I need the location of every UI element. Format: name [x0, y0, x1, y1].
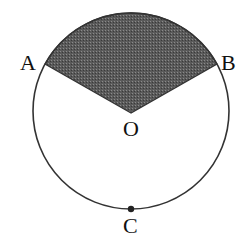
label-c: C: [123, 213, 138, 238]
label-o: O: [123, 116, 139, 141]
label-b: B: [221, 50, 236, 75]
shaded-sector-aob: [45, 13, 217, 113]
point-c-dot: [128, 206, 134, 212]
circle-diagram: A B O C: [0, 0, 240, 240]
label-a: A: [20, 50, 36, 75]
